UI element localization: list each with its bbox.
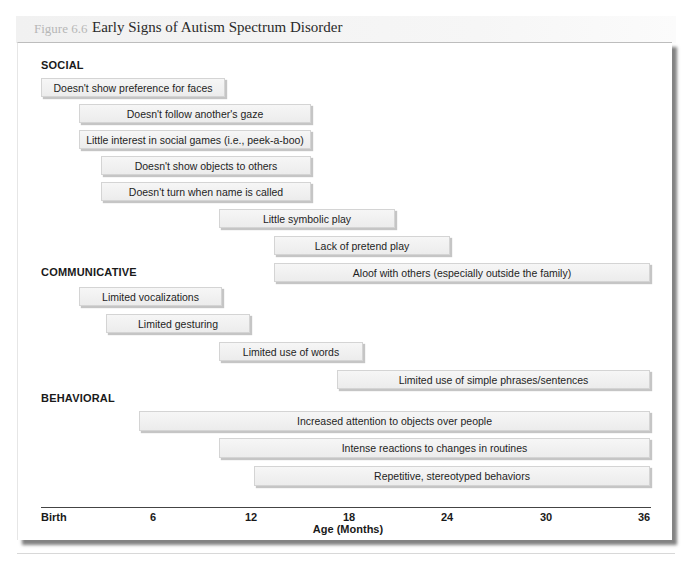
bar-label: Aloof with others (especially outside th…	[353, 267, 571, 279]
bar-limited-vocalizations: Limited vocalizations	[79, 287, 222, 306]
bar-label: Limited gesturing	[138, 318, 218, 330]
bar-label: Increased attention to objects over peop…	[297, 415, 492, 427]
bar-no-name-response: Doesn't turn when name is called	[101, 182, 311, 201]
x-tick-birth: Birth	[41, 511, 67, 523]
bar-label: Lack of pretend play	[315, 240, 410, 252]
bar-label: Little interest in social games (i.e., p…	[86, 134, 304, 146]
bar-no-gaze-following: Doesn't follow another's gaze	[79, 104, 311, 123]
category-label-communicative: COMMUNICATIVE	[41, 266, 137, 278]
bar-label: Limited use of words	[243, 346, 339, 358]
x-axis-line	[41, 507, 651, 508]
bar-limited-phrases: Limited use of simple phrases/sentences	[337, 370, 650, 389]
x-axis-title: Age (Months)	[313, 523, 383, 535]
bar-label: Repetitive, stereotyped behaviors	[374, 470, 530, 482]
category-label-behavioral: BEHAVIORAL	[41, 392, 115, 404]
bar-repetitive-behaviors: Repetitive, stereotyped behaviors	[254, 466, 650, 486]
x-tick-6: 6	[150, 511, 156, 523]
bar-label: Limited use of simple phrases/sentences	[399, 374, 589, 386]
bar-label: Little symbolic play	[263, 213, 351, 225]
x-tick-36: 36	[638, 511, 650, 523]
x-tick-30: 30	[540, 511, 552, 523]
bottom-divider	[17, 553, 675, 554]
bar-limited-words: Limited use of words	[219, 342, 363, 361]
bar-little-symbolic-play: Little symbolic play	[219, 209, 395, 228]
bar-label: Doesn't show preference for faces	[53, 82, 212, 94]
bar-label: Limited vocalizations	[102, 291, 199, 303]
bar-label: Doesn't turn when name is called	[129, 186, 283, 198]
figure-header: Figure 6.6 Early Signs of Autism Spectru…	[16, 16, 676, 43]
bar-little-social-games: Little interest in social games (i.e., p…	[79, 130, 311, 149]
x-tick-24: 24	[441, 511, 453, 523]
bar-attention-objects: Increased attention to objects over peop…	[139, 411, 650, 431]
bar-no-showing-objects: Doesn't show objects to others	[101, 156, 311, 175]
x-tick-18: 18	[343, 511, 355, 523]
bar-limited-gesturing: Limited gesturing	[106, 314, 250, 333]
bar-label: Doesn't show objects to others	[135, 160, 278, 172]
bar-lack-pretend-play: Lack of pretend play	[274, 236, 450, 255]
x-tick-12: 12	[245, 511, 257, 523]
figure-title: Early Signs of Autism Spectrum Disorder	[92, 19, 342, 36]
bar-label: Doesn't follow another's gaze	[127, 108, 264, 120]
bar-intense-reactions: Intense reactions to changes in routines	[219, 438, 650, 458]
category-label-social: SOCIAL	[41, 59, 84, 71]
bar-no-face-preference: Doesn't show preference for faces	[41, 78, 225, 97]
bar-label: Intense reactions to changes in routines	[342, 442, 528, 454]
figure-number: Figure 6.6	[34, 21, 87, 37]
bar-aloof-with-others: Aloof with others (especially outside th…	[274, 263, 650, 282]
